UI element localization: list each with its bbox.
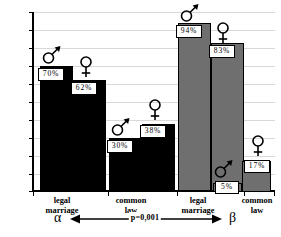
bar-value-label-group2-male: 30% — [107, 140, 133, 153]
bar-value-label-group2-female: 38% — [140, 125, 166, 138]
mars-icon — [111, 116, 131, 138]
bar-value-label-group3-female: 83% — [209, 45, 235, 58]
gridline — [33, 12, 275, 13]
gridline — [33, 30, 275, 31]
bar-value-label-group4-female: 17% — [244, 160, 270, 173]
bar-group1-male[interactable] — [40, 66, 73, 192]
mars-icon — [214, 158, 234, 180]
x-axis-category-line1: legal — [54, 196, 71, 205]
chart-container: 100% 90% 80% 70% 60% 50% 40% 30% 20% 10%… — [0, 0, 281, 237]
bar-group3-male[interactable] — [178, 23, 211, 192]
venus-icon — [76, 56, 96, 78]
venus-icon — [145, 99, 165, 121]
y-axis-line — [32, 12, 34, 192]
x-axis-category-line1: common — [242, 196, 273, 205]
bar-value-label-group1-female: 62% — [71, 82, 97, 95]
significance-annotation: α p=0,001 β — [54, 210, 236, 230]
mars-icon — [180, 2, 200, 24]
x-axis-category-line2: law — [251, 206, 264, 215]
bar-value-label-group4-male: 5% — [215, 181, 239, 194]
bar-value-label-group1-male: 70% — [38, 68, 64, 81]
bar-value-label-group3-male: 94% — [176, 25, 202, 38]
venus-icon — [213, 22, 233, 44]
x-axis-category-line1: common — [116, 196, 147, 205]
beta-symbol: β — [229, 210, 236, 226]
x-axis-category-line1: legal — [190, 196, 207, 205]
p-value-label: p=0,001 — [129, 212, 161, 224]
venus-icon — [248, 135, 268, 157]
mars-icon — [42, 44, 62, 66]
bar-group1-female[interactable] — [73, 80, 106, 192]
alpha-symbol: α — [54, 210, 61, 226]
